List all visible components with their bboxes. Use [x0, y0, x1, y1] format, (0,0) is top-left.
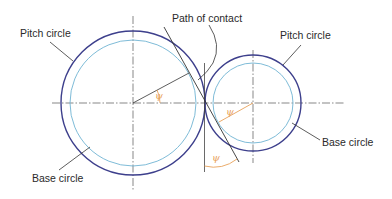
- base-circle-right-label: Base circle: [322, 136, 373, 148]
- path-of-contact-label: Path of contact: [172, 12, 242, 24]
- base-circle-left-label: Base circle: [32, 172, 83, 184]
- pitch-circle-right-label: Pitch circle: [280, 29, 331, 41]
- base-circle-right-leader: [292, 123, 320, 140]
- path-of-contact-leader: [198, 25, 217, 80]
- bottom-angle-psi: ψ: [212, 153, 220, 163]
- right-radius-line: [219, 103, 253, 122]
- bottom-angle-arc: [205, 159, 238, 167]
- left-angle-psi: ψ: [155, 91, 163, 101]
- pitch-circle-left-label: Pitch circle: [20, 27, 71, 39]
- pitch-circle-left-leader: [50, 42, 73, 61]
- path-of-contact-line: [164, 27, 239, 162]
- right-angle-psi: ψ: [226, 107, 234, 117]
- base-circle-left-leader: [59, 147, 90, 170]
- pitch-circle-right-leader: [283, 45, 301, 65]
